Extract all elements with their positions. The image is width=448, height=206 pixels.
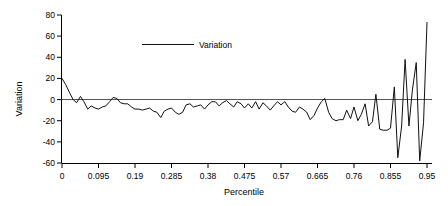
- y-tick-label: 80: [46, 10, 56, 20]
- y-tick-label: 0: [50, 95, 55, 105]
- series-line-variation: [62, 22, 427, 160]
- x-tick-label: 0.285: [161, 171, 183, 181]
- legend-label-variation: Variation: [199, 40, 232, 50]
- chart-figure: Variation 80 60 40 20 0 -20 -40 -60: [0, 0, 448, 206]
- x-tick-label: 0.19: [127, 171, 144, 181]
- x-tick-labels: 0 0.095 0.19 0.285 0.38 0.475 0.57 0.665…: [60, 171, 436, 181]
- y-tick-label: -40: [43, 137, 56, 147]
- x-tick-label: 0.665: [307, 171, 329, 181]
- y-axis-title: Variation: [14, 82, 24, 117]
- x-tick-marks: [62, 164, 427, 169]
- line-chart: Variation 80 60 40 20 0 -20 -40 -60: [0, 0, 448, 206]
- y-tick-labels: 80 60 40 20 0 -20 -40 -60: [43, 10, 56, 168]
- y-tick-label: -20: [43, 116, 56, 126]
- y-tick-label: 40: [46, 52, 56, 62]
- x-tick-label: 0.475: [234, 171, 256, 181]
- x-tick-label: 0.57: [273, 171, 290, 181]
- chart-legend: Variation: [142, 40, 232, 50]
- x-tick-label: 0: [60, 171, 65, 181]
- y-tick-label: 20: [46, 73, 56, 83]
- y-tick-marks: [57, 15, 62, 163]
- x-tick-label: 0.38: [200, 171, 217, 181]
- y-tick-label: -60: [43, 158, 56, 168]
- x-tick-label: 0.095: [88, 171, 110, 181]
- x-tick-label: 0.76: [346, 171, 363, 181]
- x-tick-label: 0.95: [419, 171, 436, 181]
- x-tick-label: 0.855: [380, 171, 402, 181]
- x-axis-title: Percentile: [224, 187, 264, 197]
- y-tick-label: 60: [46, 31, 56, 41]
